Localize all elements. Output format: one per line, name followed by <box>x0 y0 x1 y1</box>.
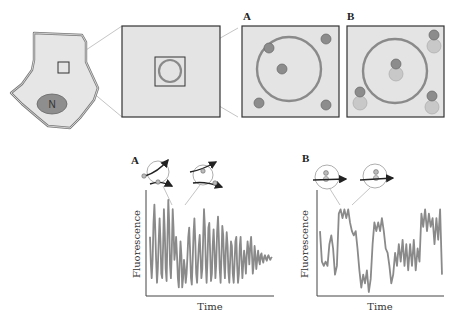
chart-b-trace <box>320 209 442 292</box>
particle-pair <box>353 87 367 110</box>
panel-a-label: A <box>243 10 251 22</box>
diagram-canvas: N A B <box>0 0 452 321</box>
rotation-icon <box>190 162 222 187</box>
particle <box>254 98 264 108</box>
particle-pair <box>427 30 441 53</box>
chart-b-ylabel: Fluorescence <box>299 210 310 278</box>
particle <box>277 64 287 74</box>
particle-pair <box>389 59 403 81</box>
particle <box>321 100 331 110</box>
zoom-panel <box>122 26 220 117</box>
particle-pair <box>425 91 439 114</box>
position-icon <box>360 164 393 188</box>
panel-b-label: B <box>347 10 355 22</box>
chart-b-label: B <box>302 152 310 164</box>
chart-a: A Fluorescence Time <box>131 154 274 312</box>
chart-a-xlabel: Time <box>197 301 222 312</box>
rotation-icon <box>142 160 172 186</box>
panel-b: B <box>347 10 444 117</box>
cell: N <box>11 33 98 128</box>
panel-a: A <box>242 10 339 117</box>
nucleus-label: N <box>48 99 55 110</box>
particle <box>321 34 331 44</box>
chart-b: B Fluorescence Time <box>299 152 444 312</box>
particle <box>264 43 274 53</box>
chart-b-xlabel: Time <box>367 301 392 312</box>
position-icon <box>313 165 346 189</box>
chart-a-label: A <box>131 154 139 166</box>
chart-a-trace <box>150 200 272 287</box>
chart-a-ylabel: Fluorescence <box>131 210 142 278</box>
